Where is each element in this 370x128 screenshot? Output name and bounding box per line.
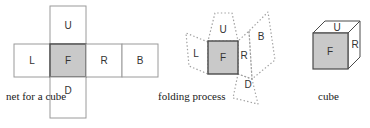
fold-face-b (249, 12, 275, 79)
cube-face-f-label: F (327, 46, 333, 57)
fold-face-f-label: F (220, 52, 226, 63)
fold-face-d-label: D (244, 79, 251, 90)
net-face-r-label: R (100, 55, 107, 66)
fold-face-u-label: U (219, 24, 226, 35)
net-face-u-label: U (64, 20, 71, 31)
cube-panel: U R F (313, 21, 360, 69)
cube-net-figure: U L F R B D U L (0, 0, 370, 128)
fold-face-b-label: B (258, 31, 265, 42)
figure-canvas: U L F R B D U L (0, 0, 370, 128)
fold-face-r-label: R (240, 50, 247, 61)
net-face-l-label: L (29, 55, 35, 66)
caption-folding-process: folding process (158, 90, 226, 102)
caption-cube: cube (318, 90, 339, 102)
caption-net-for-a-cube: net for a cube (6, 90, 66, 102)
net-face-b-label: B (137, 55, 144, 66)
fold-face-l-label: L (193, 48, 199, 59)
net-face-f-label: F (65, 55, 71, 66)
cube-face-u-label: U (333, 22, 340, 33)
cube-face-r-label: R (351, 39, 358, 50)
